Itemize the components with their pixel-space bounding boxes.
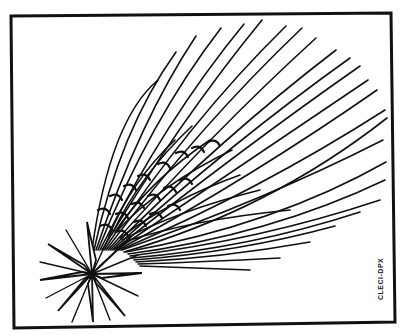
comet-illustration [0, 0, 407, 336]
artist-credit: CLECI-DPX [377, 258, 384, 300]
comet-tail [92, 20, 387, 270]
frame-border [11, 13, 395, 328]
